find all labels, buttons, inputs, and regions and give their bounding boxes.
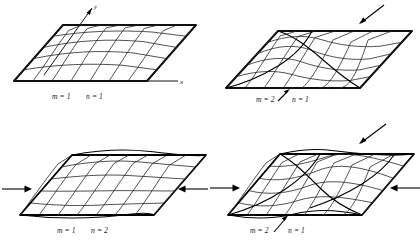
deformation-mesh	[14, 25, 196, 81]
mode-label-1-1: m = 1 n = 1	[52, 92, 103, 101]
plate-outline	[20, 155, 206, 215]
load-arrow-left	[2, 186, 32, 193]
mode-label-1-2: m = 1 n = 2	[57, 226, 108, 235]
load-arrow-diagonal	[359, 5, 384, 24]
load-arrow-right	[178, 186, 208, 193]
n-label: n = 1	[288, 226, 305, 235]
load-arrow-right	[390, 185, 420, 192]
m-label: m = 2	[250, 226, 269, 235]
label-pointer-arrow	[278, 89, 290, 101]
n-label: n = 2	[91, 226, 108, 235]
m-label: m = 1	[57, 226, 76, 235]
deformation-mesh	[226, 31, 412, 88]
x-axis-label: x	[179, 78, 184, 86]
panel-mode-1-1: y x	[0, 0, 210, 122]
m-label: m = 2	[256, 95, 275, 104]
y-axis-label: y	[93, 3, 98, 11]
n-label: n = 1	[86, 92, 103, 101]
m-label: m = 1	[52, 92, 71, 101]
load-arrow-left	[210, 185, 240, 192]
panel-mode-2-1-top: m = 2 n = 1	[210, 0, 420, 122]
deformation-mesh	[228, 149, 414, 218]
plate-buckling-figure: y x	[0, 0, 420, 245]
panel-mode-1-2: m = 1 n = 2	[0, 122, 210, 244]
mode-label-2-1: m = 2 n = 1	[256, 89, 309, 104]
plate-outline	[14, 25, 196, 81]
n-label: n = 1	[292, 95, 309, 104]
load-arrow-diagonal	[359, 124, 386, 144]
panel-mode-2-1-bottom: m = 2 n = 1	[210, 122, 420, 244]
